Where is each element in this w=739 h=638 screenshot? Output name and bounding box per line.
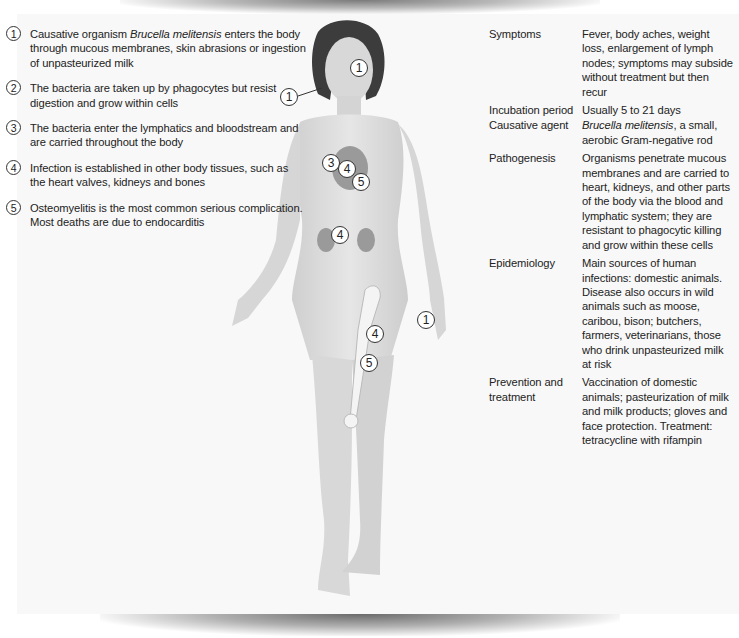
right-kidney xyxy=(357,228,375,252)
marker-femur-5: 5 xyxy=(360,354,378,372)
fact-incubation: Incubation period Usually 5 to 21 days xyxy=(489,103,734,117)
step-number: 3 xyxy=(6,120,21,135)
fact-causative-agent: Causative agent Brucella melitensis, a s… xyxy=(489,118,734,147)
fact-pathogenesis: Pathogenesis Organisms penetrate mucous … xyxy=(489,151,734,252)
fact-prevention-treatment: Prevention and treatment Vaccination of … xyxy=(489,375,734,447)
pathogenesis-steps: 1 Causative organism Brucella melitensis… xyxy=(6,27,306,240)
fact-symptoms: Symptoms Fever, body aches, weight loss,… xyxy=(489,27,734,99)
step-number: 2 xyxy=(6,80,21,95)
marker-femur-4: 4 xyxy=(366,325,384,343)
marker-heart-5: 5 xyxy=(352,173,370,191)
bottom-shadow xyxy=(100,614,620,636)
step-2: 2 The bacteria are taken up by phagocyte… xyxy=(6,81,306,110)
step-number: 5 xyxy=(6,200,21,215)
step-3: 3 The bacteria enter the lymphatics and … xyxy=(6,121,306,150)
step-5: 5 Osteomyelitis is the most common serio… xyxy=(6,201,306,230)
marker-cheek: 1 xyxy=(350,59,368,77)
marker-hand: 1 xyxy=(417,311,435,329)
marker-kidneys-4: 4 xyxy=(331,226,349,244)
step-number: 4 xyxy=(6,160,21,175)
step-number: 1 xyxy=(6,26,21,41)
left-leg xyxy=(312,355,352,596)
fact-epidemiology: Epidemiology Main sources of human infec… xyxy=(489,256,734,371)
disease-facts-table: Symptoms Fever, body aches, weight loss,… xyxy=(489,27,734,451)
step-1: 1 Causative organism Brucella melitensis… xyxy=(6,27,306,70)
step-4: 4 Infection is established in other body… xyxy=(6,161,306,190)
